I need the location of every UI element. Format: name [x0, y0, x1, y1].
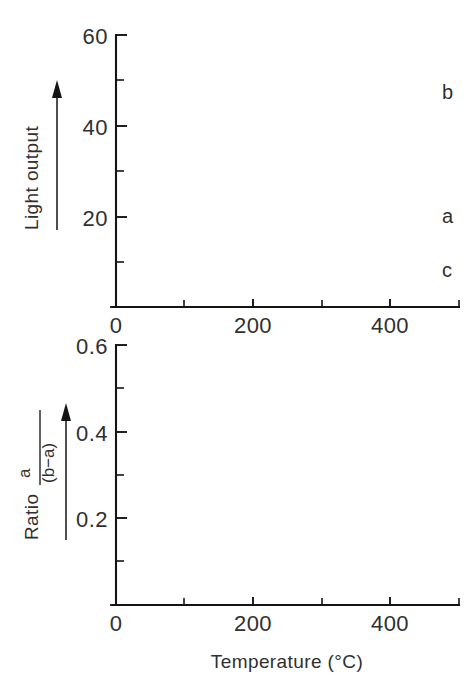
y-tick-label-0point6: 0.6: [76, 334, 108, 359]
top-panel-y-axis-title: Light output: [21, 126, 42, 230]
bottom-x-tick-label-200: 200: [234, 611, 272, 636]
top-panel-y-ticks: [110, 35, 127, 307]
bottom-panel-y-ticks: [110, 345, 127, 605]
bottom-panel-x-ticks: [116, 596, 459, 605]
curve-label-b: b: [442, 81, 453, 103]
bottom-panel-x-axis-title: Temperature (°C): [211, 651, 363, 672]
y-tick-label-60: 60: [83, 24, 108, 49]
figure-container: Light output 60 40: [0, 0, 474, 681]
figure-svg: Light output 60 40: [0, 0, 474, 681]
y-tick-label-0point2: 0.2: [76, 507, 108, 532]
x-tick-label-200: 200: [234, 313, 272, 338]
bottom-panel-axes: [113, 345, 459, 605]
curve-label-c: c: [442, 259, 452, 281]
ratio-fraction: a (b−a): [15, 410, 58, 485]
fraction-denominator: (b−a): [39, 443, 58, 483]
curve-label-a: a: [442, 205, 454, 227]
top-panel-axes: [113, 35, 459, 307]
bottom-y-axis-arrow-head: [61, 403, 71, 421]
top-panel-y-tick-labels: 60 40 20: [83, 24, 108, 231]
top-panel-y-axis-title-group: Light output: [21, 80, 62, 230]
x-tick-label-0: 0: [110, 313, 123, 338]
top-panel-x-tick-labels: 0 200 400: [110, 313, 409, 338]
y-tick-label-20: 20: [83, 206, 108, 231]
bottom-panel: Ratio a (b−a): [15, 334, 459, 672]
bottom-panel-y-axis-title-prefix: Ratio: [21, 494, 42, 540]
bottom-x-tick-label-0: 0: [110, 611, 123, 636]
top-panel-x-ticks: [116, 298, 459, 307]
y-tick-label-40: 40: [83, 115, 108, 140]
y-tick-label-0point4: 0.4: [76, 421, 108, 446]
bottom-panel-y-tick-labels: 0.6 0.4 0.2: [76, 334, 108, 532]
top-panel: Light output 60 40: [21, 24, 459, 338]
fraction-numerator: a: [15, 468, 34, 478]
x-tick-label-400: 400: [371, 313, 409, 338]
bottom-x-tick-label-400: 400: [371, 611, 409, 636]
bottom-panel-x-tick-labels: 0 200 400: [110, 611, 409, 636]
y-axis-arrow-head: [52, 80, 62, 98]
bottom-panel-y-axis-title-group: Ratio a (b−a): [15, 403, 71, 540]
